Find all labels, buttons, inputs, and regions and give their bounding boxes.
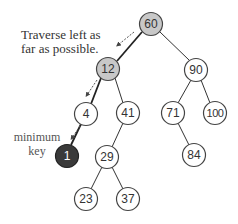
node-label: 84 <box>187 148 201 162</box>
node-label: 1 <box>64 149 71 163</box>
edge-29-37 <box>112 167 123 189</box>
edge-71-84 <box>178 123 189 145</box>
node-4: 4 <box>75 103 98 126</box>
node-84: 84 <box>183 144 206 167</box>
node-71: 71 <box>162 102 185 125</box>
edge-60-90 <box>160 32 189 60</box>
node-29: 29 <box>96 146 119 169</box>
minimum-caption-line1: minimum <box>14 130 61 144</box>
node-label: 37 <box>121 192 135 206</box>
node-label: 100 <box>207 107 224 119</box>
edge-12-41 <box>115 78 123 103</box>
edge-41-29 <box>112 123 123 147</box>
node-label: 12 <box>101 62 115 76</box>
node-12: 12 <box>97 58 120 81</box>
node-23: 23 <box>75 188 98 211</box>
bst-diagram: 60 12 90 4 41 71 100 1 29 84 23 37 <box>0 0 238 224</box>
node-41: 41 <box>117 102 140 125</box>
node-label: 41 <box>121 106 135 120</box>
node-label: 23 <box>79 192 93 206</box>
traverse-caption-line1: Traverse left as <box>21 27 101 42</box>
node-label: 71 <box>166 106 180 120</box>
node-label: 29 <box>100 150 114 164</box>
edge-60-12 <box>117 32 142 61</box>
traverse-caption-line2: far as possible. <box>21 41 99 56</box>
node-90: 90 <box>185 59 208 82</box>
node-60: 60 <box>140 13 163 36</box>
node-label: 4 <box>83 107 90 121</box>
edge-90-100 <box>201 80 210 103</box>
node-37: 37 <box>117 188 140 211</box>
node-label: 60 <box>144 17 158 31</box>
minimum-caption-line2: key <box>28 144 45 158</box>
node-1-minimum: 1 <box>56 145 79 168</box>
edge-29-23 <box>91 167 102 189</box>
node-100: 100 <box>204 102 227 125</box>
edge-12-4 <box>91 78 101 104</box>
edge-90-71 <box>178 80 191 103</box>
node-label: 90 <box>189 63 203 77</box>
